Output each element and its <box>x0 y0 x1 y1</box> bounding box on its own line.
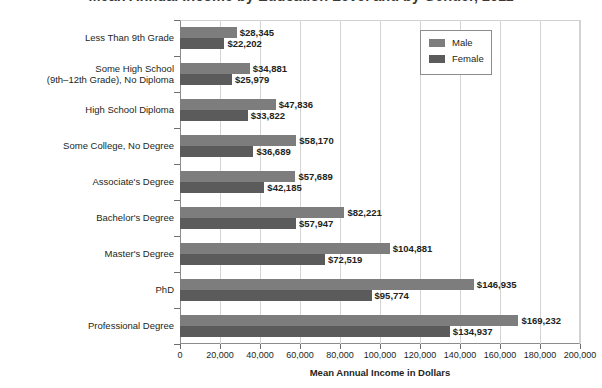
y-tick <box>174 200 180 201</box>
category-label-line: PhD <box>0 284 174 296</box>
y-tick <box>174 236 180 237</box>
x-tick <box>180 344 181 349</box>
y-tick <box>174 308 180 309</box>
x-tick <box>500 344 501 349</box>
category-label-line: Less Than 9th Grade <box>0 32 174 44</box>
x-tick-label: 100,000 <box>364 350 397 360</box>
bar-chart: 020,00040,00060,00080,000100,000120,0001… <box>0 0 602 388</box>
category-label-line: (9th–12th Grade), No Diploma <box>0 74 174 86</box>
category-label-line: Professional Degree <box>0 320 174 332</box>
y-tick <box>174 272 180 273</box>
x-tick-label: 60,000 <box>286 350 314 360</box>
bar-female <box>180 218 296 229</box>
bar-value-label: $47,836 <box>279 99 313 110</box>
legend-label-female: Female <box>452 53 484 64</box>
bar-value-label: $22,202 <box>227 38 261 49</box>
bar-value-label: $72,519 <box>328 254 362 265</box>
bar-value-label: $25,979 <box>235 74 269 85</box>
x-tick <box>340 344 341 349</box>
bar-female <box>180 290 372 301</box>
bar-female <box>180 110 248 121</box>
bar-value-label: $57,947 <box>299 218 333 229</box>
category-label-line: Bachelor's Degree <box>0 212 174 224</box>
x-tick-label: 160,000 <box>484 350 517 360</box>
x-tick <box>460 344 461 349</box>
y-tick <box>174 164 180 165</box>
category-label: Bachelor's Degree <box>0 212 174 224</box>
x-tick <box>420 344 421 349</box>
bar-male <box>180 63 250 74</box>
bar-value-label: $134,937 <box>453 326 493 337</box>
category-label-line: Associate's Degree <box>0 176 174 188</box>
bar-male <box>180 315 518 326</box>
bar-female <box>180 146 253 157</box>
bar-male <box>180 171 295 182</box>
bar-male <box>180 243 390 254</box>
x-tick-label: 180,000 <box>524 350 557 360</box>
legend-item-female: Female <box>429 53 491 64</box>
legend-label-male: Male <box>452 37 473 48</box>
bar-value-label: $82,221 <box>347 207 381 218</box>
x-tick-label: 140,000 <box>444 350 477 360</box>
x-tick <box>380 344 381 349</box>
category-label: Professional Degree <box>0 320 174 332</box>
bar-female <box>180 254 325 265</box>
x-tick <box>300 344 301 349</box>
category-label: Associate's Degree <box>0 176 174 188</box>
x-tick <box>260 344 261 349</box>
category-label: High School Diploma <box>0 104 174 116</box>
bar-value-label: $58,170 <box>299 135 333 146</box>
bar-value-label: $42,185 <box>267 182 301 193</box>
category-label-line: High School Diploma <box>0 104 174 116</box>
x-tick <box>580 344 581 349</box>
bar-value-label: $104,881 <box>393 243 433 254</box>
legend-swatch-female-icon <box>429 55 445 63</box>
legend-item-male: Male <box>429 37 491 48</box>
x-tick <box>540 344 541 349</box>
bar-male <box>180 27 237 38</box>
bar-female <box>180 182 264 193</box>
x-tick <box>220 344 221 349</box>
category-label-line: Some High School <box>0 63 174 75</box>
x-tick-label: 20,000 <box>206 350 234 360</box>
x-tick-label: 200,000 <box>564 350 597 360</box>
gridline <box>540 20 541 344</box>
category-label: Some College, No Degree <box>0 140 174 152</box>
bar-value-label: $28,345 <box>240 27 274 38</box>
y-tick <box>174 20 180 21</box>
bar-male <box>180 207 344 218</box>
bar-female <box>180 38 224 49</box>
bar-value-label: $169,232 <box>521 315 561 326</box>
legend-swatch-male-icon <box>429 39 445 47</box>
category-label: Master's Degree <box>0 248 174 260</box>
bar-female <box>180 74 232 85</box>
bar-value-label: $33,822 <box>251 110 285 121</box>
y-tick <box>174 128 180 129</box>
x-tick-label: 120,000 <box>404 350 437 360</box>
bar-value-label: $34,881 <box>253 63 287 74</box>
gridline <box>580 20 581 344</box>
bar-male <box>180 99 276 110</box>
category-label-line: Some College, No Degree <box>0 140 174 152</box>
gridline <box>500 20 501 344</box>
bar-female <box>180 326 450 337</box>
x-tick-label: 80,000 <box>326 350 354 360</box>
x-tick-label: 0 <box>177 350 182 360</box>
bar-male <box>180 279 474 290</box>
x-tick-label: 40,000 <box>246 350 274 360</box>
legend: Male Female <box>420 30 492 75</box>
y-tick <box>174 344 180 345</box>
category-label: Some High School(9th–12th Grade), No Dip… <box>0 63 174 86</box>
y-tick <box>174 56 180 57</box>
category-label: Less Than 9th Grade <box>0 32 174 44</box>
bar-male <box>180 135 296 146</box>
bar-value-label: $95,774 <box>375 290 409 301</box>
y-tick <box>174 92 180 93</box>
bar-value-label: $36,689 <box>256 146 290 157</box>
category-label: PhD <box>0 284 174 296</box>
x-axis-title: Mean Annual Income in Dollars <box>180 367 580 378</box>
bar-value-label: $146,935 <box>477 279 517 290</box>
category-label-line: Master's Degree <box>0 248 174 260</box>
bar-value-label: $57,689 <box>298 171 332 182</box>
